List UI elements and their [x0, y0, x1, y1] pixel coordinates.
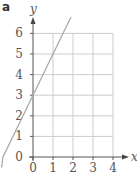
- y-tick-label: 1: [15, 129, 23, 143]
- y-tick-label: 5: [15, 47, 23, 61]
- grid: [33, 33, 113, 157]
- x-tick-label: 2: [69, 161, 77, 175]
- panel-label: a: [2, 0, 10, 14]
- y-tick-label: 6: [15, 26, 23, 40]
- y-tick-label: 3: [15, 88, 23, 102]
- axes: yx: [29, 2, 137, 164]
- data-line: [2, 17, 71, 167]
- series-line: [2, 17, 71, 167]
- x-tick-label: 4: [109, 161, 117, 175]
- x-tick-label: 3: [89, 161, 97, 175]
- y-tick-label: 2: [15, 109, 23, 123]
- y-tick-label: 4: [15, 68, 23, 82]
- y-axis-arrow-icon: [31, 17, 36, 24]
- x-axis-arrow-icon: [122, 155, 129, 160]
- y-axis-label: y: [29, 2, 37, 16]
- x-tick-label: 0: [29, 161, 37, 175]
- line-graph: a yx 012340123456: [0, 0, 137, 175]
- x-axis-label: x: [131, 150, 137, 164]
- y-tick-label: 0: [15, 150, 23, 164]
- x-tick-label: 1: [49, 161, 57, 175]
